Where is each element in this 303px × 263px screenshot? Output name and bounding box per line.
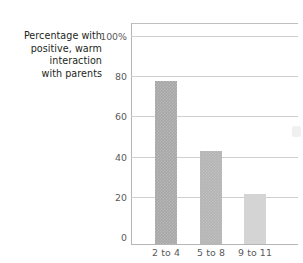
plot-area (131, 23, 298, 245)
x-tick-label-2-to-4: 2 to 4 (152, 247, 180, 258)
bar-chart-figure: Percentage with positive, warm interacti… (0, 0, 303, 263)
bar-9-to-11[interactable] (244, 194, 266, 245)
bar-5-to-8[interactable] (200, 151, 222, 244)
x-tick-label-9-to-11: 9 to 11 (238, 247, 272, 258)
x-axis-line (131, 244, 298, 245)
y-axis-line (131, 23, 132, 245)
page-edge-artifact (292, 126, 301, 137)
y-tick-label-100: 100% (87, 30, 127, 41)
gridline-80 (131, 76, 298, 77)
y-tick-label-20: 20 (87, 191, 127, 202)
bar-2-to-4[interactable] (155, 81, 177, 244)
y-tick-label-60: 60 (87, 111, 127, 122)
y-tick-label-0: 0 (87, 232, 127, 243)
plot-top-border (131, 23, 298, 24)
y-axis-tick-labels: 100% 80 60 40 20 0 (85, 23, 127, 245)
x-axis-tick-labels: 2 to 4 5 to 8 9 to 11 (131, 247, 298, 261)
gridline-100 (131, 36, 298, 37)
x-tick-label-5-to-8: 5 to 8 (197, 247, 225, 258)
y-tick-label-80: 80 (87, 71, 127, 82)
y-tick-label-40: 40 (87, 151, 127, 162)
